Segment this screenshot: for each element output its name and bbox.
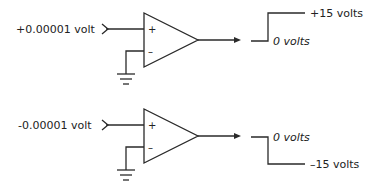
output-high-label: +15 volts xyxy=(310,7,363,20)
input-label: +0.00001 volt xyxy=(16,23,95,36)
output-low-label: 0 volts xyxy=(273,35,310,48)
plus-sign: + xyxy=(148,24,156,35)
op-amp-triangle-icon xyxy=(144,13,198,67)
ground-wire xyxy=(126,51,144,74)
ground-wire xyxy=(126,147,144,170)
op-amp-triangle-icon xyxy=(144,109,198,163)
ground-icon xyxy=(117,170,135,180)
minus-sign: – xyxy=(148,142,153,153)
arrow-head-icon xyxy=(234,37,241,43)
input-label: -0.00001 volt xyxy=(18,119,92,132)
comparator-circuit-negative: -0.00001 volt + – 0 volts –15 volts xyxy=(18,109,360,180)
output-low-label: –15 volts xyxy=(310,158,360,171)
arrow-head-icon xyxy=(234,133,241,139)
minus-sign: – xyxy=(148,46,153,57)
comparator-circuit-positive: +0.00001 volt + – +15 volts 0 volts xyxy=(16,7,363,84)
plus-sign: + xyxy=(148,120,156,131)
ground-icon xyxy=(117,74,135,84)
output-high-label: 0 volts xyxy=(273,131,310,144)
comparator-diagram: +0.00001 volt + – +15 volts 0 volts -0.0… xyxy=(0,0,370,192)
